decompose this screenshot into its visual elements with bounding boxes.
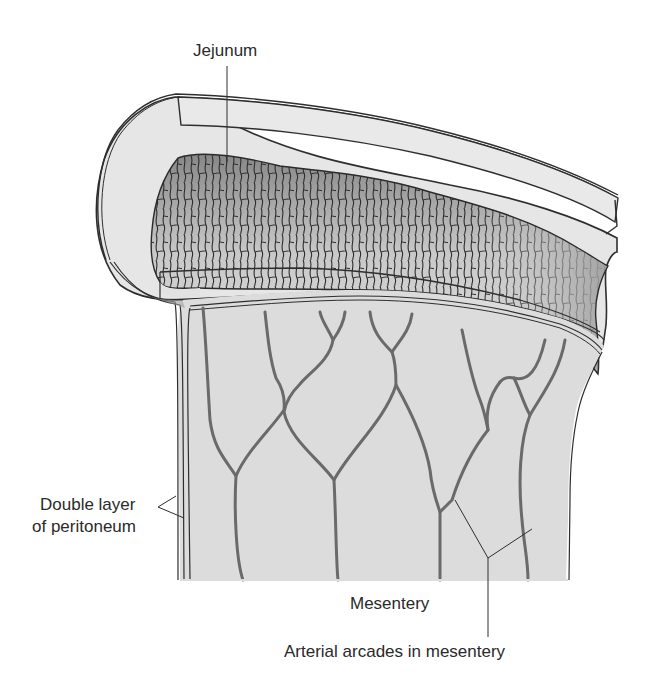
jejunum-diagram [0,0,656,675]
label-double-layer-line2: of peritoneum [32,516,136,538]
label-arterial-arcades-in-mesentery: Arterial arcades in mesentery [284,642,505,662]
label-jejunum: Jejunum [193,41,257,61]
label-double-layer-line1: Double layer [32,494,136,516]
label-double-layer-of-peritoneum: Double layer of peritoneum [32,494,136,538]
label-mesentery: Mesentery [350,594,429,614]
